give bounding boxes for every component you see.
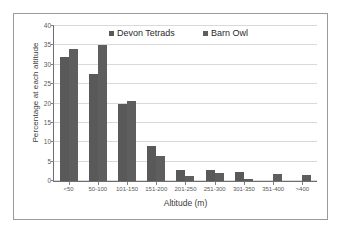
bar xyxy=(235,172,244,181)
y-tick-label: 35 xyxy=(44,41,51,48)
x-tick-mark xyxy=(273,182,274,185)
legend-entry: Devon Tetrads xyxy=(109,28,175,38)
y-tick-label: 5 xyxy=(47,157,51,164)
bar xyxy=(69,49,78,181)
x-tick-label: 301-350 xyxy=(229,186,258,192)
bar-group xyxy=(288,26,317,181)
bar xyxy=(89,74,98,181)
x-axis-title: Altitude (m) xyxy=(54,198,317,208)
bar xyxy=(273,174,282,181)
bar xyxy=(185,176,194,181)
bar-group xyxy=(142,26,171,181)
bar-groups xyxy=(54,26,317,181)
x-tick-mark xyxy=(215,182,216,185)
bar-group xyxy=(229,26,258,181)
x-tick-mark xyxy=(69,182,70,185)
chart-plot-wrapper: Percentage at each altitude 051015202530… xyxy=(14,14,327,219)
x-tick-mark xyxy=(302,182,303,185)
y-tick-label: 15 xyxy=(44,118,51,125)
bar xyxy=(60,57,69,181)
bar-group xyxy=(112,26,141,181)
x-tick-label: >400 xyxy=(288,186,317,192)
y-tick-label: 20 xyxy=(44,99,51,106)
bar xyxy=(215,173,224,181)
bar xyxy=(147,146,156,181)
x-tick-mark xyxy=(185,182,186,185)
plot-area: 0510152025303540 xyxy=(54,26,317,181)
y-tick-label: 10 xyxy=(44,138,51,145)
y-axis-title: Percentage at each altitude xyxy=(31,28,40,158)
legend-label: Devon Tetrads xyxy=(117,28,175,38)
bar xyxy=(118,104,127,182)
legend-swatch-icon xyxy=(109,31,114,36)
x-tick-label: 101-150 xyxy=(112,186,141,192)
bar xyxy=(127,101,136,181)
x-tick-mark xyxy=(244,182,245,185)
legend-label: Barn Owl xyxy=(211,28,248,38)
x-tick-mark xyxy=(98,182,99,185)
y-tick-label: 30 xyxy=(44,60,51,67)
bar xyxy=(176,170,185,181)
chart-figure: Percentage at each altitude 051015202530… xyxy=(13,13,328,220)
x-tick-label: 151-200 xyxy=(142,186,171,192)
bar xyxy=(206,170,215,181)
y-tick-label: 40 xyxy=(44,22,51,29)
bar-group xyxy=(171,26,200,181)
bar xyxy=(244,179,253,181)
bar xyxy=(98,45,107,181)
y-tick-label: 0 xyxy=(47,177,51,184)
bar-group xyxy=(200,26,229,181)
x-tick-label: 251-300 xyxy=(200,186,229,192)
x-tick-mark xyxy=(156,182,157,185)
bar-group xyxy=(259,26,288,181)
bar-group xyxy=(54,26,83,181)
x-tick-label: 351-400 xyxy=(259,186,288,192)
chart-legend: Devon TetradsBarn Owl xyxy=(109,28,248,38)
x-tick-mark xyxy=(127,182,128,185)
x-tick-label: 201-250 xyxy=(171,186,200,192)
legend-swatch-icon xyxy=(203,31,208,36)
y-tick-label: 25 xyxy=(44,80,51,87)
x-tick-label: <50 xyxy=(54,186,83,192)
bar xyxy=(302,175,311,181)
legend-entry: Barn Owl xyxy=(203,28,248,38)
x-tick-label: 50-100 xyxy=(83,186,112,192)
bar xyxy=(156,156,165,181)
bar-group xyxy=(83,26,112,181)
x-axis-tick-labels: <5050-100101-150151-200201-250251-300301… xyxy=(54,186,317,192)
